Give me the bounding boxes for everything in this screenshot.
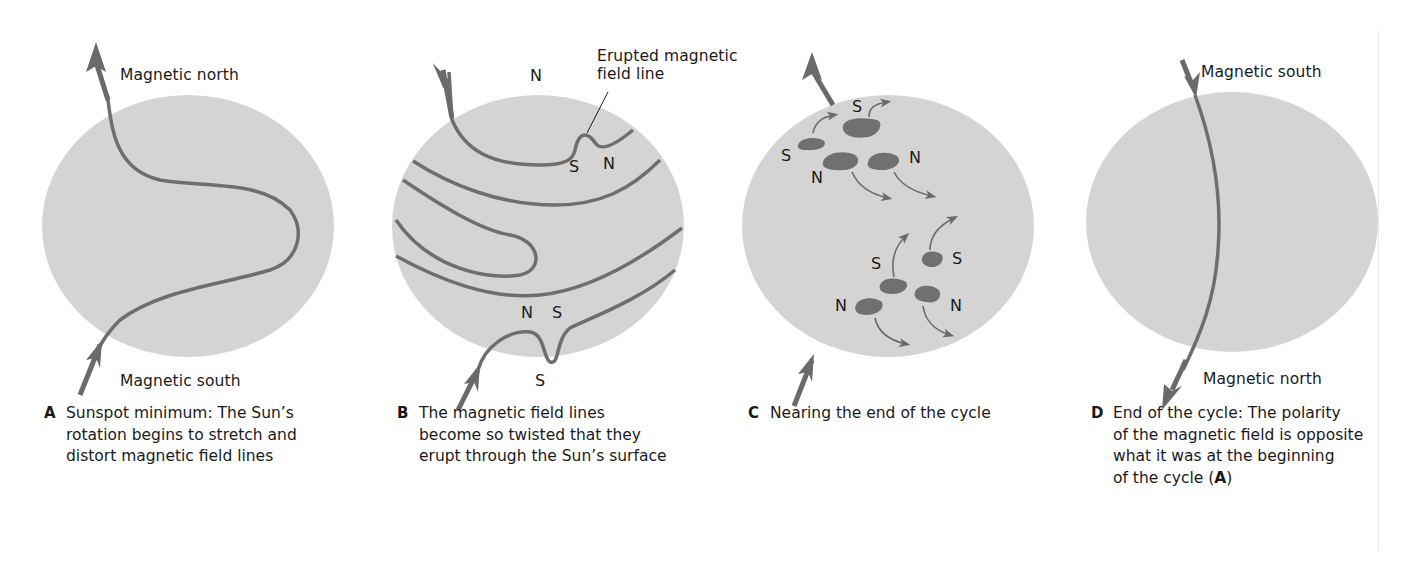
spot-label-top-s: S [852, 98, 862, 116]
spot-label-lower-s-left: S [871, 255, 881, 273]
caption-text-d-main: End of the cycle: The polarity of the ma… [1113, 404, 1363, 487]
pole-upper-s-b: S [569, 158, 579, 176]
label-magnetic-north-a: Magnetic north [120, 66, 239, 84]
pole-north-b: N [530, 67, 542, 85]
panel-b-diagram [392, 61, 684, 410]
spot-label-upper-n-right: N [909, 149, 921, 167]
spot-label-left-s: S [781, 147, 791, 165]
caption-d: D End of the cycle: The polarity of the … [1091, 403, 1410, 493]
pole-lower-n-b: N [521, 304, 533, 322]
caption-text-a: Sunspot minimum: The Sun’s rotation begi… [66, 403, 366, 468]
spot-label-upper-n-left: N [811, 169, 823, 187]
panel-c-diagram [742, 52, 1034, 406]
spot-label-lower-n-left: N [835, 297, 847, 315]
label-magnetic-north-d: Magnetic north [1203, 370, 1322, 388]
caption-a: A Sunspot minimum: The Sun’s rotation be… [44, 403, 364, 473]
sun-disk-b [392, 95, 684, 357]
caption-c: C Nearing the end of the cycle [748, 403, 1058, 433]
pole-south-b: S [535, 372, 545, 390]
caption-letter-b: B [397, 403, 408, 425]
north-arrow-icon [802, 52, 822, 80]
sunspot [915, 286, 941, 303]
sunspot-cycle-figure: Magnetic north Magnetic south A Sunspot … [0, 0, 1410, 566]
sun-disk-c [742, 95, 1034, 357]
page-edge-divider [1378, 30, 1379, 550]
caption-text-d: End of the cycle: The polarity of the ma… [1113, 403, 1410, 489]
pole-upper-n-b: N [603, 155, 615, 173]
caption-text-c: Nearing the end of the cycle [770, 403, 1070, 425]
caption-letter-c: C [748, 403, 759, 425]
caption-ref-a: A [1214, 469, 1226, 487]
panel-d-diagram [1086, 60, 1378, 410]
caption-text-b: The magnetic field lines become so twist… [419, 403, 719, 468]
sun-disk-a [42, 95, 334, 357]
sun-disk-d [1086, 92, 1378, 352]
label-magnetic-south-a: Magnetic south [120, 372, 241, 390]
label-magnetic-south-d: Magnetic south [1201, 63, 1322, 81]
pole-lower-s-b: S [552, 304, 562, 322]
spot-label-lower-s-right: S [952, 250, 962, 268]
caption-b: B The magnetic field lines become so twi… [397, 403, 717, 473]
callout-erupted-field-line: Erupted magnetic field line [597, 47, 738, 83]
caption-letter-d: D [1091, 403, 1103, 425]
panel-a-diagram [42, 42, 334, 395]
caption-text-d-close: ) [1226, 469, 1232, 487]
caption-letter-a: A [44, 403, 56, 425]
spot-label-lower-n-right: N [950, 297, 962, 315]
